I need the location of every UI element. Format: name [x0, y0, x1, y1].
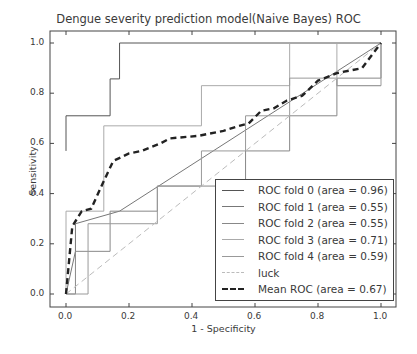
y-tick-label: 0.4	[30, 188, 44, 198]
y-tick-label: 0.6	[30, 137, 44, 147]
x-axis-label: 1 - Specificity	[50, 323, 397, 334]
legend-item: ROC fold 4 (area = 0.59)	[222, 248, 393, 265]
legend: ROC fold 0 (area = 0.96)ROC fold 1 (area…	[215, 179, 394, 301]
roc-chart: Dengue severity prediction model(Naive B…	[0, 0, 417, 354]
legend-swatch-icon	[222, 239, 244, 240]
x-tick-label: 0.8	[310, 311, 324, 321]
legend-label: luck	[258, 267, 279, 279]
legend-item: Mean ROC (area = 0.67)	[222, 281, 393, 298]
legend-swatch-icon	[222, 206, 244, 207]
x-tick-label: 0.4	[184, 311, 198, 321]
legend-label: ROC fold 2 (area = 0.55)	[258, 217, 388, 229]
legend-label: ROC fold 3 (area = 0.71)	[258, 234, 388, 246]
legend-item: ROC fold 3 (area = 0.71)	[222, 232, 393, 249]
legend-item: ROC fold 1 (area = 0.55)	[222, 199, 393, 216]
legend-swatch-icon	[222, 190, 244, 191]
y-tick-label: 0.2	[30, 238, 44, 248]
legend-label: Mean ROC (area = 0.67)	[258, 283, 387, 295]
legend-swatch-icon	[222, 272, 244, 273]
x-tick-label: 0.0	[58, 311, 72, 321]
y-tick-label: 0.0	[30, 288, 44, 298]
legend-swatch-icon	[222, 223, 244, 224]
legend-item: ROC fold 2 (area = 0.55)	[222, 215, 393, 232]
y-tick-label: 1.0	[30, 37, 44, 47]
legend-swatch-icon	[222, 256, 244, 257]
x-tick-label: 0.6	[247, 311, 261, 321]
legend-item: luck	[222, 265, 393, 282]
legend-label: ROC fold 1 (area = 0.55)	[258, 201, 388, 213]
y-tick-label: 0.8	[30, 87, 44, 97]
x-tick-label: 1.0	[373, 311, 387, 321]
legend-label: ROC fold 0 (area = 0.96)	[258, 184, 388, 196]
legend-label: ROC fold 4 (area = 0.59)	[258, 250, 388, 262]
legend-item: ROC fold 0 (area = 0.96)	[222, 182, 393, 199]
series-line-0	[66, 43, 381, 151]
x-tick-label: 0.2	[121, 311, 135, 321]
legend-swatch-icon	[222, 288, 244, 290]
